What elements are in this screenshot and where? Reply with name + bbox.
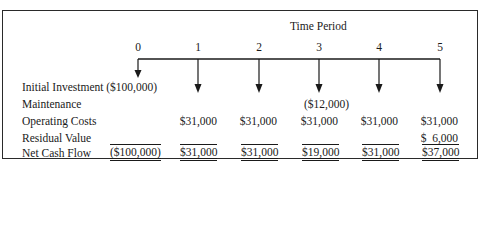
net-cash-flow-period-4: $31,000 bbox=[362, 144, 399, 161]
net-cash-flow-period-2-cell: $31,000 bbox=[241, 146, 278, 159]
operating-costs-period-4: $31,000 bbox=[338, 115, 398, 128]
row-label-maintenance: Maintenance bbox=[22, 98, 81, 111]
arrow-period-1-icon bbox=[195, 59, 202, 93]
net-cash-flow-period-3: $19,000 bbox=[302, 144, 339, 161]
operating-costs-period-3: $31,000 bbox=[278, 115, 338, 128]
arrow-period-2-icon bbox=[256, 59, 263, 93]
row-label-residual-value: Residual Value bbox=[22, 132, 91, 145]
net-cash-flow-period-3-cell: $19,000 bbox=[302, 146, 339, 159]
row-label-operating-costs: Operating Costs bbox=[22, 115, 96, 128]
operating-costs-period-5: $31,000 bbox=[398, 115, 458, 128]
net-cash-flow-period-0: ($100,000) bbox=[110, 144, 161, 161]
row-label-initial-investment: Initial Investment bbox=[22, 81, 103, 94]
net-cash-flow-period-5: $37,000 bbox=[422, 144, 459, 161]
arrow-period-5-icon bbox=[437, 59, 444, 93]
net-cash-flow-period-4-cell: $31,000 bbox=[362, 146, 399, 159]
arrow-period-0-icon bbox=[135, 59, 142, 78]
maintenance-period-3: ($12,000) bbox=[289, 98, 349, 111]
operating-costs-period-2: $31,000 bbox=[217, 115, 277, 128]
net-cash-flow-period-1-cell: $31,000 bbox=[180, 146, 217, 159]
arrow-period-4-icon bbox=[376, 59, 383, 93]
row-label-net-cash-flow: Net Cash Flow bbox=[22, 147, 91, 160]
net-cash-flow-period-5-cell: $37,000 bbox=[422, 146, 459, 159]
initial-investment-period-0: ($100,000) bbox=[97, 81, 157, 94]
net-cash-flow-period-1: $31,000 bbox=[180, 144, 217, 161]
arrow-period-3-icon bbox=[316, 59, 323, 93]
net-cash-flow-period-0-cell: ($100,000) bbox=[110, 146, 161, 159]
net-cash-flow-period-2: $31,000 bbox=[241, 144, 278, 161]
operating-costs-period-1: $31,000 bbox=[157, 115, 217, 128]
